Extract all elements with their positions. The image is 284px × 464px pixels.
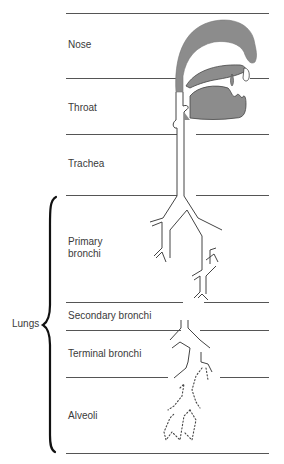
tongue-lower-jaw-shape: [190, 86, 246, 119]
lungs-brace-icon: [43, 197, 56, 452]
uvula-shape: [231, 74, 234, 86]
nasal-cavity-shape: [176, 20, 257, 92]
pharynx-shape: [173, 92, 177, 134]
upper-teeth-shape: [243, 68, 249, 81]
palate-shape: [186, 65, 246, 88]
pharynx-inner-shape: [183, 92, 188, 134]
primary-bronchi-tree: [150, 196, 222, 300]
trachea-shape: [177, 134, 184, 196]
alveoli-dotted-tree: [164, 368, 208, 440]
respiratory-tract-illustration: [0, 0, 284, 464]
